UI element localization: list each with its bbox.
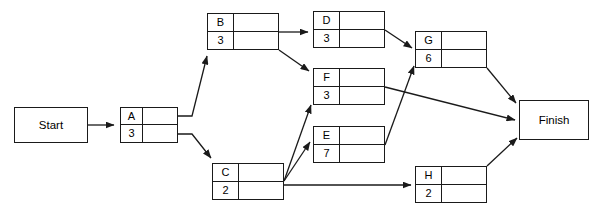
- edge-d-g: [385, 30, 412, 48]
- network-diagram-canvas: Start Finish A3B3C2D3F3E7G6H2: [0, 0, 600, 216]
- activity-g-label: G: [416, 32, 442, 50]
- activity-f-duration: 3: [314, 87, 340, 105]
- activity-node-d: D3: [313, 11, 385, 48]
- activity-e-top-right-cell: [340, 127, 384, 145]
- activity-a-top-right-cell: [143, 108, 177, 125]
- activity-node-b: B3: [207, 13, 279, 50]
- activity-b-top-right-cell: [234, 14, 278, 32]
- edge-a-b: [178, 56, 207, 116]
- edge-a-c: [178, 134, 211, 158]
- activity-d-duration: 3: [314, 30, 340, 48]
- activity-f-top-right-cell: [340, 69, 384, 87]
- edge-layer: [0, 0, 600, 216]
- activity-node-c: C2: [212, 163, 284, 200]
- activity-c-label: C: [213, 164, 239, 182]
- activity-e-label: E: [314, 127, 340, 145]
- activity-h-top-right-cell: [442, 167, 486, 185]
- activity-a-bottom-right-cell: [143, 125, 177, 142]
- start-node: Start: [14, 107, 88, 143]
- activity-d-top-right-cell: [340, 12, 384, 30]
- edge-c-f: [284, 105, 311, 181]
- edge-h-finish: [487, 138, 517, 166]
- activity-b-bottom-right-cell: [234, 32, 278, 50]
- edge-f-finish: [385, 87, 515, 120]
- activity-h-label: H: [416, 167, 442, 185]
- edge-g-finish: [487, 68, 516, 103]
- activity-c-bottom-right-cell: [239, 182, 283, 200]
- finish-node: Finish: [519, 100, 589, 140]
- activity-d-bottom-right-cell: [340, 30, 384, 48]
- activity-b-label: B: [208, 14, 234, 32]
- finish-node-label: Finish: [539, 114, 570, 126]
- activity-e-duration: 7: [314, 145, 340, 163]
- activity-node-h: H2: [415, 166, 487, 203]
- edge-b-f: [279, 50, 309, 71]
- activity-node-e: E7: [313, 126, 385, 163]
- activity-g-top-right-cell: [442, 32, 486, 50]
- activity-h-bottom-right-cell: [442, 185, 486, 203]
- activity-node-a: A3: [120, 107, 178, 143]
- activity-g-bottom-right-cell: [442, 50, 486, 68]
- start-node-label: Start: [39, 119, 63, 131]
- activity-b-duration: 3: [208, 32, 234, 50]
- activity-a-label: A: [121, 108, 143, 125]
- activity-node-g: G6: [415, 31, 487, 68]
- activity-f-bottom-right-cell: [340, 87, 384, 105]
- activity-e-bottom-right-cell: [340, 145, 384, 163]
- activity-c-top-right-cell: [239, 164, 283, 182]
- activity-d-label: D: [314, 12, 340, 30]
- activity-g-duration: 6: [416, 50, 442, 68]
- edge-e-g: [385, 66, 414, 145]
- activity-c-duration: 2: [213, 182, 239, 200]
- activity-node-f: F3: [313, 68, 385, 105]
- edge-c-e: [284, 142, 310, 181]
- activity-a-duration: 3: [121, 125, 143, 142]
- activity-h-duration: 2: [416, 185, 442, 203]
- activity-f-label: F: [314, 69, 340, 87]
